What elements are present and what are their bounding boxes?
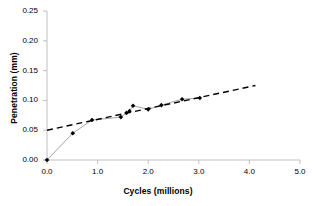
- data-connecting-line: [47, 98, 200, 160]
- data-point-marker: [180, 97, 185, 102]
- trend-line: [47, 86, 255, 131]
- x-tick-label: 1.0: [83, 167, 113, 176]
- y-tick-label: 0.10: [8, 95, 38, 104]
- x-tick-label: 5.0: [285, 167, 315, 176]
- x-tick-label: 0.0: [32, 167, 62, 176]
- penetration-vs-cycles-chart: Cycles (millions) Penetration (mm) 0.000…: [0, 0, 316, 206]
- y-tick-label: 0.05: [8, 125, 38, 134]
- data-point-marker: [131, 103, 136, 108]
- x-tick-label: 4.0: [234, 167, 264, 176]
- y-tick-label: 0.20: [8, 36, 38, 45]
- data-point-marker: [159, 103, 164, 108]
- y-tick-label: 0.25: [8, 6, 38, 15]
- x-tick-label: 3.0: [184, 167, 214, 176]
- x-tick-label: 2.0: [133, 167, 163, 176]
- y-tick-label: 0.00: [8, 155, 38, 164]
- x-axis-title: Cycles (millions): [0, 186, 316, 196]
- y-tick-label: 0.15: [8, 66, 38, 75]
